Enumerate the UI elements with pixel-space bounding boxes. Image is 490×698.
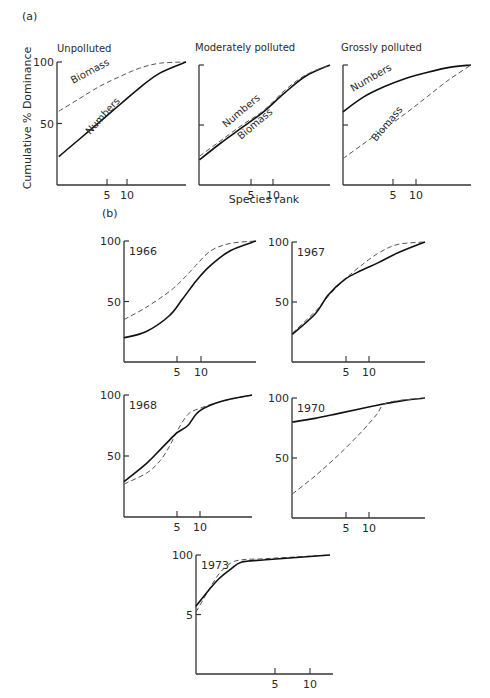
y-tick-label: 100 [268, 392, 289, 405]
x-tick-label: 5 [248, 189, 255, 202]
y-tick-label: 50 [275, 452, 289, 465]
panel-1968: 501005101968 [100, 389, 252, 534]
x-tick-label: 5 [343, 522, 350, 535]
x-tick-label: 10 [194, 366, 208, 379]
panel-title: 1967 [297, 246, 325, 259]
series-label-biomass: Biomass [69, 56, 111, 85]
x-tick-label: 10 [266, 189, 280, 202]
x-tick-label: 10 [120, 189, 134, 202]
y-tick-label: 100 [100, 235, 121, 248]
figure-canvas: (a) (b) Cumulative % Dominance Species r… [0, 0, 490, 698]
panel-title: 1970 [297, 402, 325, 415]
panel-title: Moderately polluted [195, 42, 295, 53]
y-tick-label: 50 [107, 296, 121, 309]
y-tick-label: 100 [33, 56, 54, 69]
panel-1966: 501005101966 [100, 235, 256, 379]
panel-1973: 51005101973 [172, 549, 333, 691]
y-tick-label: 100 [100, 389, 121, 402]
series-label-biomass: Biomass [369, 104, 404, 143]
y-tick-label: 50 [107, 450, 121, 463]
y-tick-label: 5 [186, 609, 193, 622]
x-tick-label: 5 [104, 189, 111, 202]
part-a-label: (a) [22, 10, 37, 23]
panel-title: Grossly polluted [341, 42, 422, 53]
x-tick-label: 5 [343, 366, 350, 379]
y-tick-label: 100 [268, 236, 289, 249]
part-b-label: (b) [102, 207, 118, 220]
panel-unpolluted: 50100510UnpollutedBiomassNumbers [33, 43, 186, 202]
panel-title: 1968 [129, 399, 157, 412]
x-tick-label: 10 [362, 522, 376, 535]
x-tick-label: 10 [362, 366, 376, 379]
panel-title: Unpolluted [57, 43, 111, 54]
panel-1970: 501005101970 [268, 392, 425, 535]
panel-1967: 501005101967 [268, 236, 425, 379]
x-tick-label: 10 [193, 521, 207, 534]
series-label-numbers: Numbers [349, 62, 394, 94]
x-tick-label: 5 [390, 189, 397, 202]
y-tick-label: 50 [40, 118, 54, 131]
x-tick-label: 10 [303, 678, 317, 691]
x-axis-label: Species rank [229, 193, 300, 206]
x-tick-label: 5 [174, 521, 181, 534]
panel-grossly-polluted: 510Grossly pollutedNumbersBiomass [341, 42, 471, 202]
y-tick-label: 50 [275, 296, 289, 309]
x-tick-label: 10 [409, 189, 423, 202]
y-tick-label: 100 [172, 549, 193, 562]
panel-moderately-polluted: 510Moderately pollutedNumbersBiomass [195, 42, 330, 202]
x-tick-label: 5 [272, 678, 279, 691]
panel-title: 1966 [129, 245, 157, 258]
x-tick-label: 5 [174, 366, 181, 379]
panel-title: 1973 [201, 559, 229, 572]
series-label-numbers: Numbers [83, 95, 122, 136]
